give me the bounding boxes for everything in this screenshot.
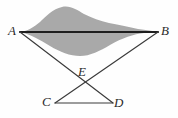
- vertex-label-c: C: [42, 95, 51, 108]
- figure-canvas: [0, 0, 178, 118]
- shaded-blob-upper: [20, 7, 158, 32]
- vertex-label-e: E: [78, 65, 86, 78]
- vertex-label-a: A: [8, 24, 16, 37]
- shaded-blob-lower: [20, 32, 158, 56]
- vertex-label-b: B: [161, 24, 169, 37]
- geometry-figure: A B C D E: [0, 0, 178, 118]
- vertex-label-d: D: [114, 96, 123, 109]
